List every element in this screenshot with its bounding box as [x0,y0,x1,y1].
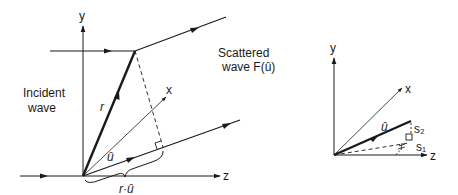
scattering-diagram-svg: y x z Incident wave Scattered wave F(û) … [0,0,458,195]
inset-angle-ticks [398,143,405,150]
inset-angle-arc [396,150,402,155]
projection-label: r·û [119,182,134,195]
scattering-figure: y x z Incident wave Scattered wave F(û) … [0,0,458,195]
right-angle-marker [155,141,161,149]
inset-s2-label: s₂ [414,122,425,136]
inset-u-hat-vector [334,121,411,155]
incident-wave-label-1: Incident [23,86,66,100]
inset-diagram [334,58,427,155]
inset-right-angle-square [406,134,412,140]
u-hat-arrow-icon [126,157,135,163]
scattered-bottom-arrow-icon [222,123,231,129]
scattered-ray-bottom [83,120,240,176]
inset-z-axis-label: z [430,149,436,163]
scattered-ray-top [135,17,226,51]
inset-x-axis [334,88,402,155]
incident-wave-label-2: wave [27,101,56,115]
x-axis [83,97,166,176]
main-y-axis-label: y [79,9,85,23]
r-vector-label: r [100,100,105,114]
incident-top-arrow-icon [104,49,112,54]
projection-dashed-line [135,51,163,147]
main-x-axis-label: x [166,83,172,97]
main-z-axis-label: z [223,169,229,183]
incident-arrow-icon [40,174,48,179]
inset-y-axis-label: y [330,41,336,55]
inset-x-axis-label: x [405,82,411,96]
projection-brace [85,151,163,183]
inset-u-hat-label: û [381,120,388,134]
scattered-wave-label-1: Scattered [218,46,269,60]
scattered-wave-label-2: wave F(û) [221,60,275,74]
scattered-top-arrow-icon [190,28,199,34]
u-hat-label: û [107,150,114,164]
inset-s1-label: s₁ [416,140,426,154]
